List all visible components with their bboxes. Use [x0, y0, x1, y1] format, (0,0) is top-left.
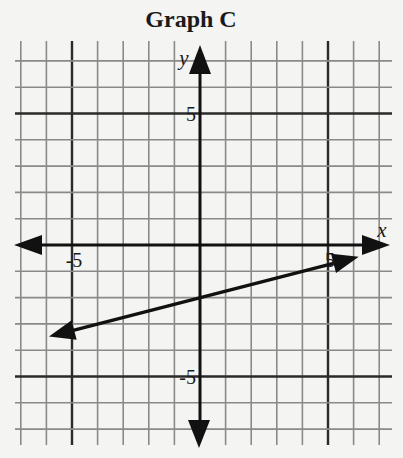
x-axis-label: x	[376, 218, 387, 242]
chart-title: Graph C	[145, 6, 236, 32]
y-tick-label-neg5: -5	[179, 366, 196, 388]
graph-c-chart: Graph C -5 5 5 -5 x y	[0, 0, 403, 458]
y-tick-label-5: 5	[186, 103, 196, 125]
x-tick-label-5: 5	[325, 249, 335, 271]
y-axis-label: y	[177, 46, 189, 70]
x-tick-label-neg5: -5	[66, 249, 83, 271]
